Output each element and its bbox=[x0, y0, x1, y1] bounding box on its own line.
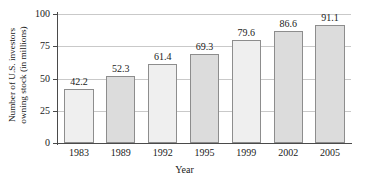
y-tick-mark bbox=[53, 143, 58, 144]
y-tick-label: 75 bbox=[40, 41, 50, 51]
bar-chart: Number of U.S. investors owning stock (i… bbox=[0, 0, 369, 182]
x-tick-label: 2005 bbox=[305, 147, 355, 158]
y-tick-label: 25 bbox=[40, 106, 50, 116]
y-tick-mark bbox=[53, 14, 58, 15]
y-tick-mark bbox=[53, 46, 58, 47]
bar-value-label: 69.3 bbox=[184, 42, 225, 52]
y-axis-title: Number of U.S. investors owning stock (i… bbox=[5, 10, 31, 140]
bar-value-label: 91.1 bbox=[309, 13, 350, 23]
y-axis-title-line-1: Number of U.S. investors bbox=[7, 28, 18, 122]
y-tick-label: 100 bbox=[35, 9, 50, 19]
y-axis-title-line-2: owning stock (in millions) bbox=[18, 26, 29, 123]
bar bbox=[232, 40, 261, 143]
bar bbox=[315, 25, 344, 143]
bar bbox=[148, 64, 177, 143]
bar bbox=[106, 76, 135, 143]
bar-value-label: 42.2 bbox=[58, 77, 99, 87]
bar-value-label: 86.6 bbox=[268, 19, 309, 29]
bar-value-label: 52.3 bbox=[100, 64, 141, 74]
bar bbox=[274, 31, 303, 143]
gridline bbox=[58, 14, 351, 15]
y-tick-label: 0 bbox=[45, 138, 50, 148]
bar-value-label: 79.6 bbox=[226, 28, 267, 38]
x-axis-title: Year bbox=[0, 164, 369, 175]
y-tick-mark bbox=[53, 79, 58, 80]
bar bbox=[64, 89, 93, 143]
y-tick-label: 50 bbox=[40, 74, 50, 84]
y-tick-mark bbox=[53, 111, 58, 112]
x-axis-line bbox=[57, 143, 352, 144]
bar-value-label: 61.4 bbox=[142, 52, 183, 62]
bar bbox=[190, 54, 219, 143]
